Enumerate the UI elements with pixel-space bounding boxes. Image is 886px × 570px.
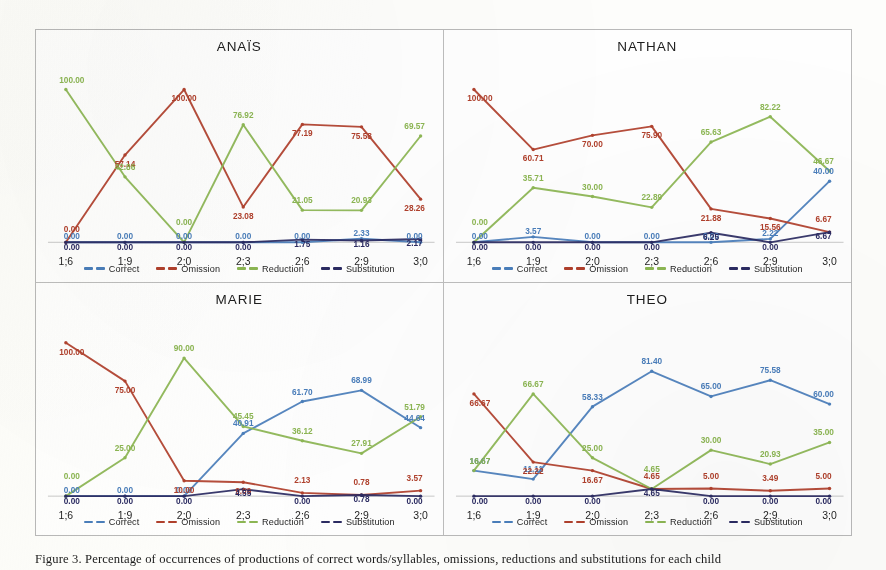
svg-text:0.00: 0.00 [407,497,423,506]
legend-dash-substitution [729,267,738,269]
legend-dash-correct-2 [96,521,105,523]
svg-text:6.25: 6.25 [702,233,719,242]
plot-area-theo: 1;61;92;02;32;62;93;016.6711.1158.3381.4… [444,283,852,536]
svg-text:75.90: 75.90 [641,131,662,140]
svg-text:21.88: 21.88 [700,214,721,223]
svg-text:0.00: 0.00 [176,243,192,252]
svg-text:61.70: 61.70 [292,387,313,396]
svg-text:0.00: 0.00 [525,497,542,506]
legend-dash-substitution-2 [741,267,750,269]
svg-text:16.67: 16.67 [469,456,490,465]
svg-text:5.00: 5.00 [702,471,719,480]
legend-dash-substitution-2 [333,521,342,523]
svg-text:58.33: 58.33 [582,392,603,401]
svg-text:0.00: 0.00 [762,497,779,506]
legend-dash-correct-2 [504,521,513,523]
svg-text:0.00: 0.00 [471,243,488,252]
svg-text:68.99: 68.99 [351,376,372,385]
svg-text:0.00: 0.00 [525,243,542,252]
svg-text:36.12: 36.12 [292,426,313,435]
legend-dash-reduction-2 [657,521,666,523]
legend-dash-correct [492,267,501,269]
svg-text:77.19: 77.19 [292,129,313,138]
legend-item-reduction: Reduction [645,517,712,527]
legend-item-substitution: Substitution [729,264,803,274]
svg-text:69.57: 69.57 [404,122,425,131]
svg-text:0.00: 0.00 [64,472,80,481]
svg-text:75.58: 75.58 [759,366,780,375]
svg-text:66.67: 66.67 [522,379,543,388]
svg-text:42.86: 42.86 [115,163,136,172]
line-chart-theo: 1;61;92;02;32;62;93;016.6711.1158.3381.4… [444,283,852,536]
legend-anais: Correct Omission Reduction Substitution [36,264,443,274]
svg-text:45.45: 45.45 [233,412,254,421]
svg-text:0.00: 0.00 [471,218,488,227]
svg-text:0.78: 0.78 [353,494,369,503]
svg-text:2.17: 2.17 [407,239,423,248]
line-chart-nathan: 1;61;92;02;32;62;93;00.003.570.000.000.0… [444,30,852,282]
legend-item-omission: Omission [156,517,220,527]
legend-dash-omission-2 [168,267,177,269]
svg-text:0.00: 0.00 [176,218,192,227]
svg-text:4.65: 4.65 [643,465,660,474]
svg-text:46.67: 46.67 [813,157,834,166]
legend-label-omission: Omission [181,517,220,527]
svg-text:0.00: 0.00 [471,497,488,506]
legend-dash-reduction [237,267,246,269]
legend-dash-substitution [729,521,738,523]
legend-item-omission: Omission [156,264,220,274]
svg-text:0.00: 0.00 [64,497,80,506]
svg-text:75.00: 75.00 [115,386,136,395]
legend-dash-correct [84,521,93,523]
svg-text:0.00: 0.00 [584,243,601,252]
svg-text:60.00: 60.00 [813,390,834,399]
legend-dash-omission [156,267,165,269]
legend-dash-correct [492,521,501,523]
chart-panel-marie: MARIE 1;61;92;02;32;62;93;00.000.000.004… [36,283,444,536]
legend-dash-substitution-2 [333,267,342,269]
svg-text:30.00: 30.00 [582,183,603,192]
legend-item-substitution: Substitution [321,264,395,274]
svg-text:25.00: 25.00 [582,443,603,452]
chart-panel-nathan: NATHAN 1;61;92;02;32;62;93;00.003.570.00… [444,30,852,283]
legend-label-reduction: Reduction [670,517,712,527]
legend-dash-omission-2 [576,267,585,269]
legend-marie: Correct Omission Reduction Substitution [36,517,443,527]
legend-dash-correct-2 [504,267,513,269]
legend-dash-correct-2 [96,267,105,269]
legend-dash-omission [564,521,573,523]
svg-text:0.00: 0.00 [117,497,133,506]
legend-dash-reduction [237,521,246,523]
legend-dash-omission [156,521,165,523]
svg-text:76.92: 76.92 [233,111,254,120]
legend-dash-omission-2 [168,521,177,523]
svg-text:0.00: 0.00 [702,497,719,506]
svg-text:0.00: 0.00 [643,232,660,241]
svg-text:35.00: 35.00 [813,428,834,437]
svg-text:0.00: 0.00 [815,497,832,506]
legend-dash-omission-2 [576,521,585,523]
svg-text:28.26: 28.26 [404,204,425,213]
svg-text:0.00: 0.00 [117,243,133,252]
svg-text:0.00: 0.00 [235,243,251,252]
legend-label-substitution: Substitution [754,517,803,527]
legend-dash-reduction-2 [249,267,258,269]
legend-dash-reduction-2 [249,521,258,523]
figure-caption: Figure 3. Percentage of occurrences of p… [35,552,852,567]
svg-text:22.22: 22.22 [522,467,543,476]
svg-text:0.00: 0.00 [294,497,310,506]
legend-label-correct: Correct [517,264,548,274]
svg-text:6.67: 6.67 [815,215,832,224]
svg-text:1.75: 1.75 [294,240,310,249]
svg-text:0.00: 0.00 [64,225,80,234]
svg-text:23.08: 23.08 [233,212,254,221]
svg-text:100.00: 100.00 [467,94,493,103]
svg-text:21.05: 21.05 [292,196,313,205]
legend-label-reduction: Reduction [670,264,712,274]
figure-panel-grid: ANAÏS 1;61;92;02;32;62;93;00.000.000.000… [35,29,852,536]
legend-theo: Correct Omission Reduction Substitution [444,517,852,527]
legend-dash-reduction [645,521,654,523]
svg-text:20.93: 20.93 [759,450,780,459]
line-chart-marie: 1;61;92;02;32;62;93;00.000.000.0040.9161… [36,283,443,536]
svg-text:20.93: 20.93 [351,196,372,205]
